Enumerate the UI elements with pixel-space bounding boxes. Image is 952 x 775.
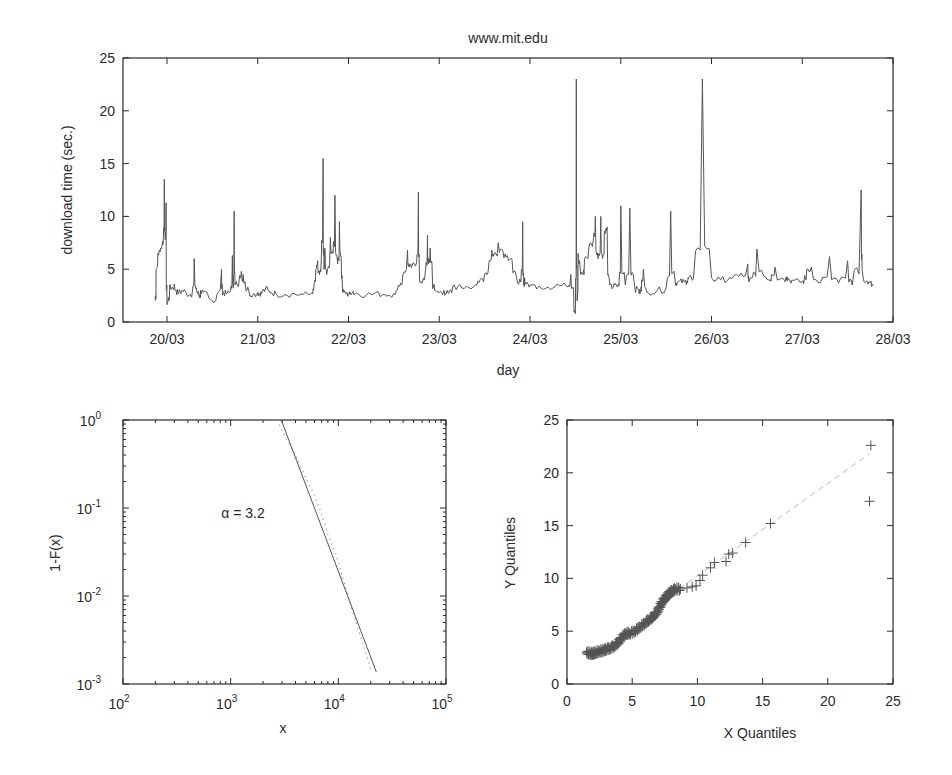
- plot-area-loglog: [123, 420, 446, 684]
- x-axis-label: x: [280, 720, 287, 736]
- x-tick-label: 27/03: [785, 331, 820, 347]
- y-tick-label: 10: [543, 570, 559, 586]
- alpha-annotation: α = 3.2: [221, 505, 265, 521]
- power-law-fit-line: [281, 420, 376, 672]
- y-tick-label: 25: [99, 50, 115, 66]
- x-tick-label: 104: [324, 693, 346, 712]
- y-tick-label: 25: [543, 412, 559, 428]
- y-axis-ticks: 0510152025: [99, 50, 893, 330]
- chart-title: www.mit.edu: [467, 30, 547, 46]
- x-tick-label: 25: [885, 693, 901, 709]
- download-time-series: [155, 79, 873, 314]
- plus-marker: [765, 518, 775, 528]
- x-tick-label: 28/03: [875, 331, 910, 347]
- ccdf-loglog-chart: 10210310410510010-110-210-3 α = 3.2 x 1-…: [47, 410, 453, 736]
- quantile-points: [582, 440, 876, 660]
- x-tick-label: 10: [690, 693, 706, 709]
- log-axis-ticks: 10210310410510010-110-210-3: [77, 410, 453, 712]
- x-tick-label: 15: [755, 693, 771, 709]
- qq-axis-ticks: 05101520250510152025: [543, 412, 901, 709]
- y-tick-label: 20: [543, 465, 559, 481]
- x-tick-label: 24/03: [512, 331, 547, 347]
- x-tick-label: 105: [431, 693, 453, 712]
- y-tick-label: 10: [99, 208, 115, 224]
- figure: www.mit.edu 0510152025 20/0321/0322/0323…: [0, 0, 952, 775]
- x-tick-label: 20: [820, 693, 836, 709]
- x-tick-label: 26/03: [694, 331, 729, 347]
- y-tick-label: 20: [99, 103, 115, 119]
- x-tick-label: 102: [108, 693, 130, 712]
- x-tick-label: 20/03: [149, 331, 184, 347]
- x-tick-label: 5: [628, 693, 636, 709]
- x-tick-label: 25/03: [603, 331, 638, 347]
- plus-marker: [865, 496, 875, 506]
- y-tick-label: 0: [107, 314, 115, 330]
- y-axis-label: 1-F(x): [47, 534, 63, 571]
- plus-marker: [682, 583, 692, 593]
- plus-marker: [866, 440, 876, 450]
- y-tick-label: 10-2: [77, 586, 102, 605]
- x-tick-label: 21/03: [240, 331, 275, 347]
- y-tick-label: 5: [551, 623, 559, 639]
- x-axis-label: day: [497, 362, 520, 378]
- x-tick-label: 103: [216, 693, 238, 712]
- x-tick-label: 0: [563, 693, 571, 709]
- y-tick-label: 15: [99, 156, 115, 172]
- x-axis-ticks: 20/0321/0322/0323/0324/0325/0326/0327/03…: [149, 58, 910, 347]
- qq-plot-chart: 05101520250510152025 X Quantiles Y Quant…: [502, 412, 901, 741]
- x-tick-label: 22/03: [331, 331, 366, 347]
- plus-marker: [698, 570, 708, 580]
- y-tick-label: 15: [543, 518, 559, 534]
- x-tick-label: 23/03: [422, 331, 457, 347]
- empirical-ccdf-dotted: [277, 420, 371, 669]
- y-tick-label: 10-3: [77, 674, 102, 693]
- y-tick-label: 5: [107, 261, 115, 277]
- y-tick-label: 100: [80, 410, 102, 429]
- y-tick-label: 10-1: [77, 498, 102, 517]
- y-axis-label: download time (sec.): [59, 125, 75, 254]
- y-axis-label: Y Quantiles: [502, 517, 518, 589]
- x-axis-label: X Quantiles: [724, 725, 796, 741]
- time-series-chart: www.mit.edu 0510152025 20/0321/0322/0323…: [59, 30, 911, 378]
- y-tick-label: 0: [551, 676, 559, 692]
